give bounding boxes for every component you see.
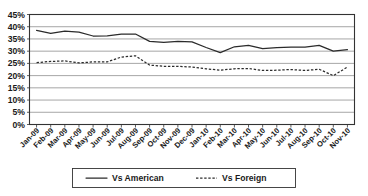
chart-legend: Vs AmericanVs Foreign [73,169,296,188]
data-series [37,30,348,75]
y-axis-label: 15% [8,83,26,93]
plot-frame [30,15,355,125]
plot-area-border [30,15,355,125]
y-axis-label: 0% [13,120,26,130]
y-axis-label: 10% [8,95,26,105]
y-axis-label: 25% [8,58,26,68]
y-axis-label: 5% [13,107,26,117]
series-line-vs-foreign [37,56,348,76]
y-axis-label: 20% [8,71,26,81]
chart-svg: 0%5%10%15%20%25%30%35%40%45% Jan-09Feb-0… [0,0,368,196]
line-chart: 0%5%10%15%20%25%30%35%40%45% Jan-09Feb-0… [0,0,368,196]
grid-lines [27,15,355,125]
x-axis-labels: Jan-09Feb-09Mar-09Apr-09May-09Jun-09Jul-… [18,126,352,151]
y-axis-label: 30% [8,46,26,56]
y-axis-labels: 0%5%10%15%20%25%30%35%40%45% [8,10,26,130]
legend-label-vs-foreign: Vs Foreign [222,173,266,183]
y-axis-label: 40% [8,22,26,32]
legend-label-vs-american: Vs American [112,173,164,183]
y-axis-label: 45% [8,10,26,20]
series-line-vs-american [37,30,348,52]
y-axis-label: 35% [8,34,26,44]
